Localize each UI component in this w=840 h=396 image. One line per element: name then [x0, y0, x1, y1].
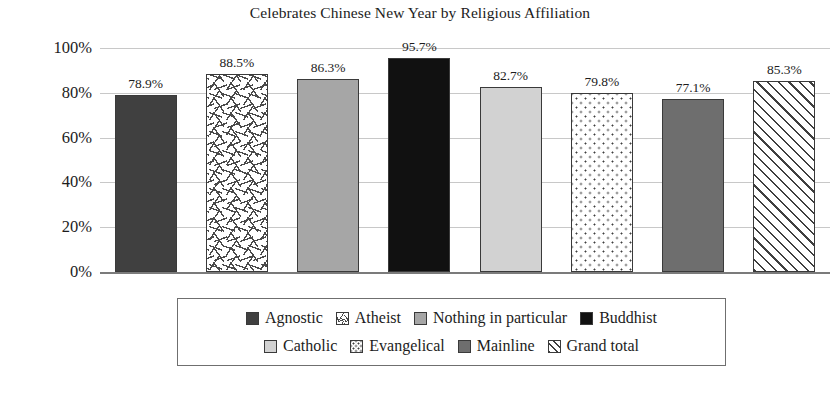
- chart-legend: AgnosticAtheistNothing in particularBudd…: [177, 298, 726, 366]
- bar[interactable]: [753, 81, 815, 272]
- y-axis-tick-label: 80%: [12, 83, 92, 103]
- legend-label: Evangelical: [369, 338, 445, 354]
- legend-row: AgnosticAtheistNothing in particularBudd…: [246, 304, 657, 332]
- legend-swatch-icon: [336, 312, 349, 325]
- bar-value-label: 88.5%: [219, 55, 254, 71]
- bar-value-label: 86.3%: [311, 60, 346, 76]
- bar[interactable]: [662, 99, 724, 272]
- legend-swatch-icon: [414, 312, 427, 325]
- legend-item[interactable]: Mainline: [458, 338, 535, 354]
- y-axis-tick-label: 100%: [12, 38, 92, 58]
- bar-value-label: 77.1%: [676, 80, 711, 96]
- bar-value-label: 95.7%: [402, 39, 437, 55]
- bar[interactable]: [297, 79, 359, 272]
- legend-label: Buddhist: [599, 310, 657, 326]
- y-axis-tick-label: 0%: [12, 262, 92, 282]
- bar[interactable]: [571, 93, 633, 272]
- legend-swatch-icon: [350, 340, 363, 353]
- legend-swatch-icon: [580, 312, 593, 325]
- legend-label: Catholic: [283, 338, 337, 354]
- bar-value-label: 78.9%: [128, 76, 163, 92]
- legend-label: Mainline: [477, 338, 535, 354]
- legend-swatch-icon: [458, 340, 471, 353]
- bar-value-label: 85.3%: [767, 62, 802, 78]
- legend-label: Atheist: [355, 310, 401, 326]
- bar[interactable]: [480, 87, 542, 272]
- bar[interactable]: [206, 74, 268, 272]
- legend-item[interactable]: Buddhist: [580, 310, 657, 326]
- legend-swatch-icon: [264, 340, 277, 353]
- y-axis-tick-label: 20%: [12, 217, 92, 237]
- legend-label: Nothing in particular: [433, 310, 567, 326]
- y-axis-tick-label: 40%: [12, 172, 92, 192]
- x-axis-line: [100, 272, 830, 274]
- chart-container: Celebrates Chinese New Year by Religious…: [0, 0, 840, 396]
- bar-value-label: 79.8%: [584, 74, 619, 90]
- legend-item[interactable]: Atheist: [336, 310, 401, 326]
- legend-label: Agnostic: [265, 310, 323, 326]
- legend-swatch-icon: [246, 312, 259, 325]
- gridline: [100, 48, 830, 49]
- bar[interactable]: [115, 95, 177, 272]
- legend-row: CatholicEvangelicalMainlineGrand total: [264, 332, 639, 360]
- legend-item[interactable]: Grand total: [548, 338, 639, 354]
- legend-item[interactable]: Agnostic: [246, 310, 323, 326]
- bar-value-label: 82.7%: [493, 68, 528, 84]
- plot-area: [100, 48, 830, 272]
- legend-item[interactable]: Evangelical: [350, 338, 445, 354]
- legend-item[interactable]: Catholic: [264, 338, 337, 354]
- legend-item[interactable]: Nothing in particular: [414, 310, 567, 326]
- chart-title: Celebrates Chinese New Year by Religious…: [0, 4, 840, 22]
- legend-label: Grand total: [567, 338, 639, 354]
- y-axis-tick-label: 60%: [12, 128, 92, 148]
- legend-swatch-icon: [548, 340, 561, 353]
- bar[interactable]: [388, 58, 450, 272]
